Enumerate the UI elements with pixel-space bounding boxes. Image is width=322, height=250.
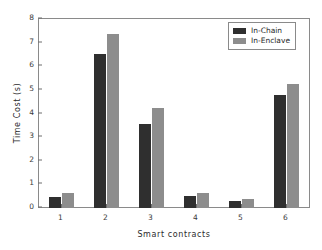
y-axis-tick-label: 7 [29,38,34,46]
bar [139,124,151,208]
bar-chart: Time Cost (s) 012345678 Smart contracts … [0,0,322,250]
bar [197,193,209,208]
y-axis-tick-label: 1 [29,180,34,188]
bar [287,84,299,208]
bar [94,54,106,208]
x-axis-tick-mark [106,204,107,208]
y-axis-title: Time Cost (s) [13,58,22,168]
x-axis: Smart contracts 123456 [38,208,310,250]
bar [152,108,164,208]
bar [184,196,196,208]
x-axis-tick-mark [61,204,62,208]
legend-swatch-icon [233,38,246,44]
legend: In-ChainIn-Enclave [228,22,296,50]
legend-item: In-Chain [233,26,290,36]
bar [62,193,74,208]
x-axis-tick-mark [286,204,287,208]
x-axis-tick-mark [241,204,242,208]
y-axis: Time Cost (s) 012345678 [0,18,38,208]
x-axis-tick-label: 3 [148,214,153,222]
legend-item-label: In-Enclave [251,37,290,45]
x-axis-tick-label: 2 [103,214,108,222]
x-axis-tick-mark [196,204,197,208]
y-axis-tick-label: 2 [29,156,34,164]
x-axis-tick-label: 6 [283,214,288,222]
bar [274,95,286,208]
x-axis-title: Smart contracts [38,230,310,239]
y-axis-tick-label: 4 [29,109,34,117]
y-axis-tick-label: 3 [29,132,34,140]
y-axis-tick-label: 5 [29,85,34,93]
x-axis-tick-mark [151,204,152,208]
bar [229,201,241,208]
legend-item: In-Enclave [233,36,290,46]
legend-swatch-icon [233,28,246,34]
x-axis-tick-label: 4 [193,214,198,222]
y-axis-tick-label: 6 [29,62,34,70]
bar [49,197,61,208]
y-axis-tick-label: 0 [29,203,34,211]
bar [242,199,254,208]
legend-item-label: In-Chain [251,27,282,35]
y-axis-tick-label: 8 [29,14,34,22]
x-axis-tick-label: 1 [58,214,63,222]
bar [107,34,119,208]
x-axis-tick-label: 5 [238,214,243,222]
